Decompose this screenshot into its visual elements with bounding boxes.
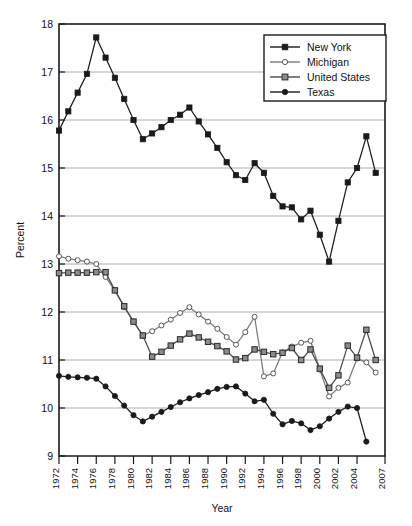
- data-point: [140, 333, 145, 338]
- x-axis-title: Year: [211, 502, 233, 514]
- data-point: [252, 347, 257, 352]
- data-point: [289, 345, 294, 350]
- x-tick-label: 1976: [87, 468, 98, 489]
- data-point: [103, 384, 108, 389]
- data-point: [317, 424, 322, 429]
- data-point: [336, 218, 341, 223]
- data-point: [75, 258, 80, 263]
- legend-marker: [282, 74, 288, 80]
- data-point: [205, 132, 210, 137]
- data-point: [224, 384, 229, 389]
- data-point: [94, 262, 99, 267]
- data-point: [308, 427, 313, 432]
- data-point: [233, 173, 238, 178]
- data-point: [373, 357, 378, 362]
- data-point: [178, 310, 183, 315]
- x-tick-label: 1990: [218, 468, 229, 489]
- y-tick-label: 16: [41, 114, 53, 126]
- data-point: [345, 343, 350, 348]
- data-point: [75, 375, 80, 380]
- data-point: [112, 75, 117, 80]
- data-point: [84, 259, 89, 264]
- data-point: [215, 326, 220, 331]
- data-point: [75, 270, 80, 275]
- legend-marker: [282, 59, 287, 64]
- data-point: [354, 165, 359, 170]
- data-point: [308, 208, 313, 213]
- data-point: [196, 335, 201, 340]
- data-point: [243, 177, 248, 182]
- data-point: [224, 349, 229, 354]
- y-tick-label: 17: [41, 66, 53, 78]
- y-tick-label: 18: [41, 18, 53, 30]
- data-point: [131, 117, 136, 122]
- data-point: [94, 269, 99, 274]
- data-point: [205, 390, 210, 395]
- data-point: [56, 373, 61, 378]
- data-point: [345, 404, 350, 409]
- data-point: [336, 373, 341, 378]
- data-point: [168, 343, 173, 348]
- data-point: [261, 397, 266, 402]
- data-point: [205, 339, 210, 344]
- data-point: [215, 145, 220, 150]
- x-axis-ticks: 1972197419761978198019821984198619881990…: [50, 456, 387, 489]
- data-point: [243, 355, 248, 360]
- chart-legend[interactable]: New YorkMichiganUnited StatesTexas: [264, 35, 386, 101]
- y-axis-ticks: 9101112131415161718: [41, 18, 65, 462]
- data-point: [103, 55, 108, 60]
- data-point: [206, 319, 211, 324]
- data-point: [289, 418, 294, 423]
- x-tick-label: 1994: [255, 468, 266, 489]
- data-point: [131, 413, 136, 418]
- data-point: [299, 217, 304, 222]
- data-point: [373, 370, 378, 375]
- data-point: [243, 391, 248, 396]
- legend-label: New York: [307, 41, 352, 53]
- legend-label: United States: [307, 71, 370, 83]
- legend-marker: [282, 89, 287, 94]
- y-tick-label: 12: [41, 306, 53, 318]
- data-point: [159, 349, 164, 354]
- data-point: [56, 128, 61, 133]
- y-tick-label: 15: [41, 162, 53, 174]
- data-point: [149, 354, 154, 359]
- data-point: [252, 314, 257, 319]
- data-point: [298, 357, 303, 362]
- legend-label: Michigan: [307, 56, 349, 68]
- data-point: [84, 71, 89, 76]
- data-point: [308, 338, 313, 343]
- data-point: [289, 205, 294, 210]
- data-point: [271, 411, 276, 416]
- data-point: [271, 193, 276, 198]
- data-point: [177, 337, 182, 342]
- data-point: [345, 380, 350, 385]
- data-point: [57, 254, 62, 259]
- x-tick-label: 1984: [162, 468, 173, 489]
- data-point: [150, 329, 155, 334]
- data-point: [364, 360, 369, 365]
- data-point: [196, 119, 201, 124]
- y-tick-label: 9: [47, 450, 53, 462]
- data-point: [233, 342, 238, 347]
- data-point: [168, 404, 173, 409]
- line-chart: 9101112131415161718 19721974197619781980…: [0, 0, 412, 526]
- data-point: [112, 288, 117, 293]
- x-tick-label: 1978: [106, 468, 117, 489]
- x-tick-label: 1992: [236, 468, 247, 489]
- data-point: [187, 305, 192, 310]
- x-tick-label: 1972: [50, 468, 61, 489]
- data-point: [364, 439, 369, 444]
- data-point: [280, 422, 285, 427]
- x-tick-label: 2002: [329, 468, 340, 489]
- y-tick-label: 14: [41, 210, 53, 222]
- data-point: [261, 374, 266, 379]
- data-point: [280, 350, 285, 355]
- y-axis-title: Percent: [14, 222, 26, 258]
- x-tick-label: 1988: [199, 468, 210, 489]
- data-point: [317, 232, 322, 237]
- data-point: [327, 259, 332, 264]
- data-point: [177, 112, 182, 117]
- y-tick-label: 13: [41, 258, 53, 270]
- data-point: [94, 376, 99, 381]
